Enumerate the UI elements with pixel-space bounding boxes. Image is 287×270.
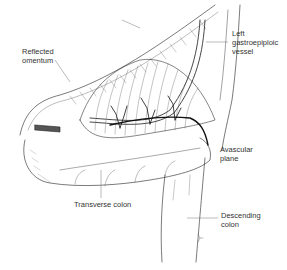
stomach-outline [20,5,215,135]
label-avascular-plane: Avascular plane [220,145,253,163]
leader-reflected-omentum [55,60,70,82]
label-line: gastroepiploic [232,38,278,47]
leader-top [122,20,140,28]
label-line: vessel [232,47,278,56]
label-line: plane [220,154,253,163]
label-line: omentum [22,56,54,65]
label-left-gastroepiploic-vessel: Left gastroepiploic vessel [232,29,278,56]
label-transverse-colon: Transverse colon [74,200,131,209]
label-line: Avascular [220,145,253,154]
label-descending-colon: Descending colon [221,211,261,229]
label-line: Left [232,29,278,38]
label-line: Transverse colon [74,200,131,209]
label-line: Descending [221,211,261,220]
transverse-colon-outline [24,138,211,186]
label-reflected-omentum: Reflected omentum [22,47,54,65]
label-line: Reflected [22,47,54,56]
avascular-plane-line [110,117,208,145]
label-line: colon [221,220,261,229]
descending-colon-outline [161,175,165,262]
